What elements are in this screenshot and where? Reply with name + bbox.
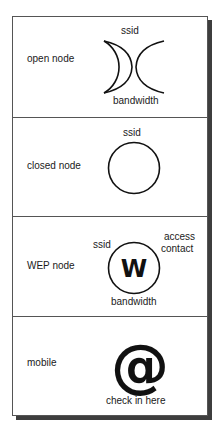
wep-node-circle-icon: W	[107, 241, 161, 295]
legend-row-mobile: mobile @ check in here	[13, 316, 207, 415]
legend-row-open-node: open node ssid bandwidth	[13, 17, 207, 117]
ssid-caption: ssid	[123, 127, 141, 138]
at-sign-icon: @	[111, 337, 169, 395]
row-label: open node	[27, 53, 74, 64]
closed-node-circle-icon	[107, 141, 161, 195]
contact-caption: contact	[161, 243, 193, 254]
legend-row-closed-node: closed node ssid	[13, 117, 207, 216]
access-caption: access	[164, 231, 195, 242]
ssid-caption: ssid	[121, 25, 139, 36]
row-label: mobile	[27, 357, 56, 368]
warchalking-legend: open node ssid bandwidth closed node ssi…	[12, 16, 208, 416]
row-label: closed node	[27, 160, 81, 171]
svg-text:W: W	[121, 255, 147, 283]
row-label: WEP node	[27, 260, 75, 271]
bandwidth-caption: bandwidth	[111, 296, 157, 307]
open-node-arcs-icon	[103, 39, 165, 95]
legend-row-wep-node: WEP node ssid access contact W bandwidth	[13, 216, 207, 316]
bandwidth-caption: bandwidth	[113, 95, 159, 106]
check-in-caption: check in here	[106, 395, 165, 406]
